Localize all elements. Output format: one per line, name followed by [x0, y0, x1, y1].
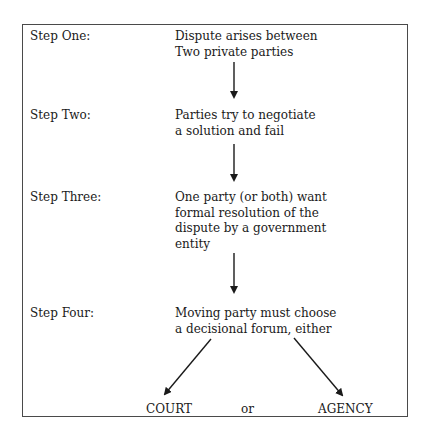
arrow-diagonal-right-icon	[294, 338, 342, 395]
flow-arrows	[0, 0, 432, 436]
arrow-diagonal-left-icon	[165, 339, 211, 394]
